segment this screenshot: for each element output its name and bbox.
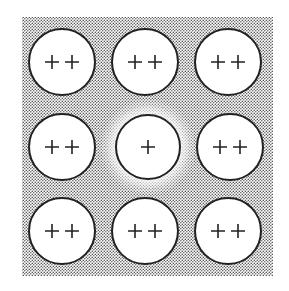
singly-charged-ion <box>116 115 180 179</box>
doubly-charged-ion <box>195 29 261 95</box>
doubly-charged-ion <box>29 114 95 180</box>
ion-circle <box>195 198 261 264</box>
ion-circle <box>29 198 95 264</box>
doubly-charged-ion <box>197 114 263 180</box>
ion-circle <box>197 114 263 180</box>
doubly-charged-ion <box>195 198 261 264</box>
ion-circle <box>29 114 95 180</box>
doubly-charged-ion <box>29 198 95 264</box>
doubly-charged-ion <box>112 198 178 264</box>
ion-lattice-diagram <box>0 0 289 291</box>
ion-circle <box>29 29 95 95</box>
ion-circle <box>195 29 261 95</box>
doubly-charged-ion <box>112 29 178 95</box>
ion-circle <box>112 198 178 264</box>
doubly-charged-ion <box>29 29 95 95</box>
ion-circle <box>112 29 178 95</box>
